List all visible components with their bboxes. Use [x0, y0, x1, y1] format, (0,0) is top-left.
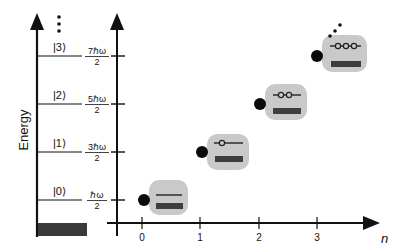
energy-fraction-2: 5ℏω 2	[85, 94, 109, 115]
svg-text:ℏω: ℏω	[90, 190, 103, 200]
n-tick-0: 0	[139, 232, 145, 243]
atom-dot-icon	[311, 50, 323, 62]
photon-icon	[286, 92, 291, 97]
state-n2	[254, 84, 307, 120]
state-n0	[138, 180, 188, 215]
atom-dot-icon	[254, 98, 266, 110]
ground-block	[38, 223, 87, 236]
atom-dot-icon	[138, 194, 150, 206]
energy-fraction-0: ℏω 2	[87, 190, 107, 211]
n-tick-1: 1	[197, 232, 203, 243]
n-axis-arrow-icon	[363, 216, 380, 230]
svg-text:3ℏω: 3ℏω	[88, 142, 106, 152]
ket-3: |3⟩	[53, 41, 66, 53]
vertical-arrow-icon	[110, 13, 124, 30]
svg-text:7ℏω: 7ℏω	[88, 46, 106, 56]
energy-arrow-icon	[30, 13, 44, 30]
svg-text:2: 2	[94, 57, 99, 67]
ket-0: |0⟩	[53, 185, 66, 197]
photon-icon	[278, 92, 283, 97]
state-n1	[196, 134, 249, 170]
n-tick-2: 2	[256, 232, 262, 243]
atom-dot-icon	[196, 146, 208, 158]
svg-text:2: 2	[94, 153, 99, 163]
n-tick-3: 3	[314, 232, 320, 243]
state-n3	[311, 35, 367, 72]
energy-level-diagram: Energy |3⟩ |2⟩ |1⟩ |0⟩ 7ℏω 2 5ℏω 2 3ℏω 2…	[0, 0, 405, 252]
photon-icon	[351, 43, 356, 48]
energy-level-lines	[37, 56, 82, 200]
n-axis	[107, 216, 380, 230]
energy-fraction-1: 3ℏω 2	[85, 142, 109, 163]
n-axis-label: n	[381, 231, 388, 246]
svg-text:2: 2	[94, 201, 99, 211]
continuation-dots-icon	[57, 15, 61, 33]
photon-icon	[343, 43, 348, 48]
ket-1: |1⟩	[53, 137, 66, 149]
svg-text:5ℏω: 5ℏω	[88, 94, 106, 104]
photon-icon	[219, 140, 224, 145]
vertical-axis	[110, 13, 125, 236]
svg-text:2: 2	[94, 105, 99, 115]
energy-fraction-3: 7ℏω 2	[85, 46, 109, 67]
photon-icon	[335, 43, 340, 48]
ket-2: |2⟩	[53, 89, 66, 101]
energy-axis	[30, 13, 44, 237]
energy-axis-label: Energy	[16, 109, 31, 151]
